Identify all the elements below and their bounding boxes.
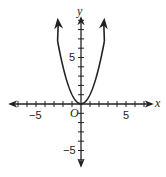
y-axis-label: y [76, 4, 83, 18]
origin-label: O [70, 106, 79, 120]
x-tick-label-neg5: −5 [29, 109, 42, 121]
y-tick-label-neg5: −5 [63, 144, 76, 156]
x-axis-label: x [154, 96, 161, 110]
x-tick-label-pos5: 5 [123, 109, 129, 121]
parabola-graph: y x O −5 5 5 −5 [0, 0, 166, 177]
y-tick-label-pos5: 5 [69, 51, 75, 63]
